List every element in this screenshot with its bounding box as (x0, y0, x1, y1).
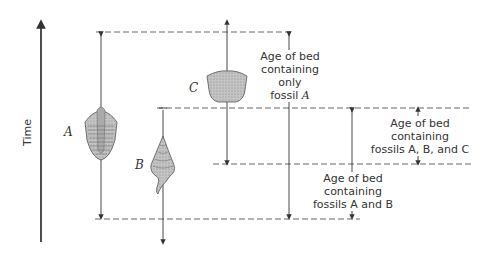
time-axis-label: Time (21, 119, 34, 146)
gastropod-fossil-icon (151, 136, 175, 194)
annotation-ab: Age of bed containing fossils A and B (310, 172, 396, 211)
fossil-label-a: A (64, 125, 73, 139)
calyx-fossil-icon (207, 71, 247, 102)
fossil-label-c: C (189, 81, 198, 95)
fossil-label-b: B (135, 158, 144, 172)
trilobite-fossil-icon (85, 107, 117, 160)
annotation-only-a: Age of bed containing only fossil A (248, 50, 332, 102)
annotation-abc: Age of bed containing fossils A, B, and … (368, 117, 472, 156)
